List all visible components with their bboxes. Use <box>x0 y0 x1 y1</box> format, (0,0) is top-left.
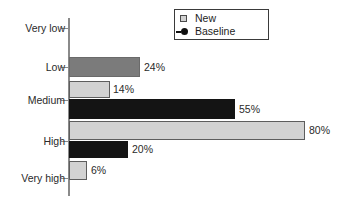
bar-value-veryhigh-new: 6% <box>91 165 106 176</box>
bar-value-medium-baseline: 55% <box>239 104 260 115</box>
bar-medium-new <box>69 81 110 98</box>
bar-chart: Very low Low Medium High Very high 24% 1… <box>0 0 346 204</box>
legend-entry-new: New <box>180 12 216 25</box>
bar-high-new <box>69 121 305 140</box>
bar-value-high-baseline: 20% <box>132 144 153 155</box>
bar-high-baseline <box>69 141 128 158</box>
bar-medium-baseline <box>69 99 235 119</box>
y-axis-label-medium: Medium <box>28 95 65 106</box>
y-axis-label-very-low: Very low <box>25 23 65 34</box>
y-axis-label-very-high: Very high <box>21 173 65 184</box>
legend-label-baseline: Baseline <box>195 26 235 37</box>
bar-value-medium-new: 14% <box>113 84 134 95</box>
bar-value-high-new: 80% <box>309 125 330 136</box>
square-swatch-icon <box>180 15 187 22</box>
chart-legend: New Baseline <box>174 9 269 40</box>
legend-entry-baseline: Baseline <box>180 25 235 38</box>
legend-label-new: New <box>195 13 216 24</box>
y-axis-label-low: Low <box>46 62 65 73</box>
bar-value-low-baseline: 24% <box>144 62 165 73</box>
bar-low-baseline <box>69 57 140 77</box>
bar-veryhigh-new <box>69 161 87 180</box>
line-dot-marker-icon <box>180 27 189 36</box>
y-axis-label-high: High <box>43 136 65 147</box>
